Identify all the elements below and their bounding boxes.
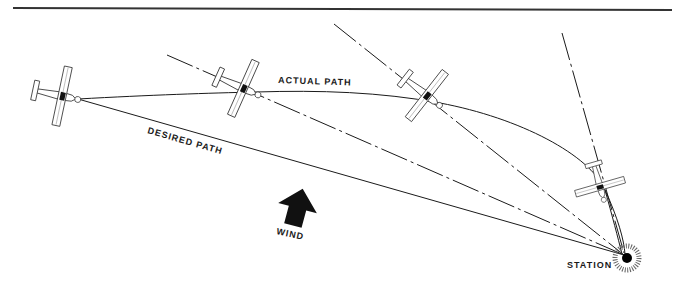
actual-path-label: ACTUAL PATH xyxy=(278,75,352,88)
bearing-line-4 xyxy=(562,33,624,253)
actual-path-curve xyxy=(78,91,625,254)
wind-label: WIND xyxy=(276,226,305,242)
station-label: STATION xyxy=(567,260,612,270)
station-icon xyxy=(615,246,639,270)
actual-path-final-segment xyxy=(605,190,622,254)
desired-path-line xyxy=(78,99,624,255)
top-rule xyxy=(13,8,672,10)
homing-diagram: ACTUAL PATH DESIRED PATH WIND STATION xyxy=(0,0,686,289)
airplane-3-icon xyxy=(385,53,461,130)
bearing-line-3 xyxy=(334,24,624,255)
bearing-lines xyxy=(167,24,624,255)
airplane-2-icon xyxy=(204,49,273,124)
wind-arrow-icon xyxy=(274,184,322,231)
airplane-4-icon xyxy=(569,155,630,209)
airplane-1-icon xyxy=(27,61,87,130)
